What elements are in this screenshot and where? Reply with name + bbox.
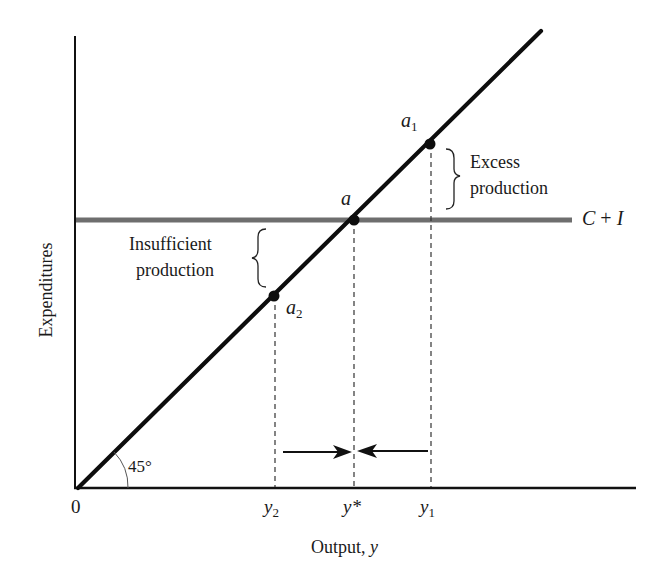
point-a1 xyxy=(425,139,436,150)
ci-label-plus: + xyxy=(595,207,616,229)
y-axis-label: Expenditures xyxy=(37,243,55,338)
tick-y1: y1 xyxy=(420,497,435,519)
ci-label-c: C xyxy=(582,207,595,229)
tick-ystar: y* xyxy=(343,497,361,516)
excess-brace xyxy=(446,149,460,209)
diagram-canvas xyxy=(0,0,662,575)
insufficient-production-label-line1: Insufficient xyxy=(129,235,212,253)
tick-y2: y2 xyxy=(264,497,279,519)
angle-arc xyxy=(114,452,128,488)
point-a1-label: a1 xyxy=(401,110,418,133)
point-a2-text: a xyxy=(286,296,296,318)
point-a2-label: a2 xyxy=(286,297,303,320)
tick-y1-sub: 1 xyxy=(428,505,435,520)
point-a2-sub: 2 xyxy=(296,306,303,321)
point-a1-sub: 1 xyxy=(411,119,418,134)
point-a xyxy=(349,215,360,226)
excess-production-label-line2: production xyxy=(470,179,548,197)
excess-production-label-line1: Excess xyxy=(470,153,520,171)
origin-label: 0 xyxy=(71,497,81,516)
x-axis-label: Output, y xyxy=(311,538,378,556)
tick-y2-sub: 2 xyxy=(272,505,279,520)
insufficient-brace xyxy=(252,229,266,287)
angle-label: 45° xyxy=(128,458,152,475)
insufficient-production-label-line2: production xyxy=(136,261,214,279)
ci-line-label: C + I xyxy=(582,208,623,228)
point-a1-text: a xyxy=(401,109,411,131)
ci-label-i: I xyxy=(617,207,624,229)
x-axis-label-text: Output, xyxy=(311,537,370,557)
point-a-label: a xyxy=(341,188,351,208)
x-axis-label-var: y xyxy=(370,537,378,557)
point-a2 xyxy=(269,291,280,302)
